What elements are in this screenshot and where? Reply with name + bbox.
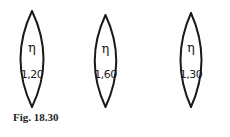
biconvex-lens-icon [174,12,208,108]
eta-symbol: η [88,41,123,56]
lens-1: η 1,20 [13,10,51,108]
lens-2: η 1,60 [88,14,123,108]
figure-caption: Fig. 18.30 [13,111,59,123]
eta-symbol: η [13,40,51,55]
refractive-index: 1,60 [88,68,123,81]
biconvex-lens-icon [13,10,51,108]
lens-3: η 1,30 [174,12,208,108]
refractive-index: 1,30 [174,68,208,81]
biconvex-lens-icon [88,14,123,108]
refractive-index: 1,20 [13,68,51,81]
eta-symbol: η [174,40,208,55]
